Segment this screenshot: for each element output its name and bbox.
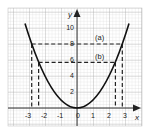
x-tick-m2: -2 — [41, 112, 47, 119]
x-tick-m3: -3 — [25, 112, 31, 119]
y-tick-6: 6 — [70, 56, 74, 63]
y-tick-8: 8 — [70, 40, 74, 47]
x-tick-1: 1 — [91, 112, 95, 119]
y-tick-2: 2 — [70, 88, 74, 95]
x-tick-m1: -1 — [57, 112, 63, 119]
line-a-label: (a) — [95, 33, 105, 42]
y-tick-4: 4 — [70, 72, 74, 79]
x-tick-0: 0 — [76, 112, 80, 119]
x-tick-2: 2 — [107, 112, 111, 119]
x-tick-3: 3 — [123, 112, 127, 119]
parabola-graph: (a) (b) y x 10 8 6 4 2 -3 -2 -1 0 1 2 3 — [0, 0, 148, 134]
line-b-label: (b) — [95, 52, 105, 61]
y-tick-10: 10 — [66, 24, 74, 31]
